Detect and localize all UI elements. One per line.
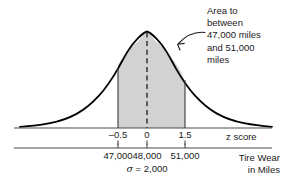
sigma-annotation: σ = 2,000: [126, 163, 167, 174]
miles-tick-label-47000: 47,000: [103, 150, 132, 161]
annotation-arrowhead-icon: [178, 43, 185, 50]
z-tick-label-0: 0: [144, 129, 149, 140]
z-axis-title: z score: [226, 131, 257, 143]
annotation-text: Area to between 47,000 miles and 51,000 …: [207, 5, 284, 66]
miles-tick-label-51000: 51,000: [170, 150, 199, 161]
sigma-value: = 2,000: [136, 163, 168, 174]
z-tick-label-1-5: 1.5: [178, 129, 191, 140]
miles-tick-label-48000: 48,000: [132, 150, 161, 161]
shaded-area-region: [118, 32, 185, 128]
annotation-arrow-icon: [179, 32, 206, 43]
miles-axis-title: Tire Wear in Miles: [222, 152, 280, 175]
z-tick-label--0-5: –0.5: [109, 129, 128, 140]
sigma-symbol: σ: [126, 163, 133, 174]
